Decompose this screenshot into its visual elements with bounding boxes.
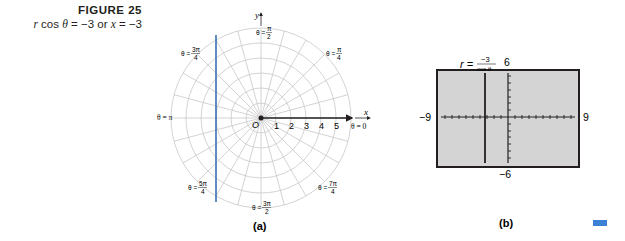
ymin-label: −6	[499, 168, 511, 180]
label-theta-7pi-4: θ = 7π 4	[318, 180, 338, 195]
svg-text:2: 2	[267, 33, 271, 40]
panel-b-label: (b)	[499, 217, 513, 229]
ymax-label: 6	[504, 56, 510, 68]
svg-text:4: 4	[194, 54, 198, 61]
label-theta-0: θ = 0	[351, 122, 367, 131]
tick-5: 5	[334, 121, 339, 131]
xmin-label: −9	[419, 111, 431, 123]
label-theta-3pi-2: θ = 3π 2	[252, 200, 272, 215]
svg-text:2: 2	[265, 208, 269, 215]
tick-3: 3	[304, 121, 309, 131]
svg-text:4: 4	[337, 54, 341, 61]
svg-text:π: π	[267, 25, 272, 32]
tick-4: 4	[319, 121, 324, 131]
svg-text:θ =: θ =	[181, 50, 190, 57]
label-theta-3pi-4: θ = 3π 4	[181, 46, 201, 61]
svg-text:θ =: θ =	[318, 184, 327, 191]
polar-graph: y x O 1 2 3 4 5 θ = 0 θ = π θ = π 2 θ = …	[0, 0, 625, 241]
svg-text:θ =: θ =	[256, 29, 265, 36]
svg-text:θ =: θ =	[188, 184, 197, 191]
y-axis-label: y	[254, 10, 259, 20]
xmax-label: 9	[583, 111, 589, 123]
section-end-marker	[593, 220, 607, 226]
svg-text:5π: 5π	[199, 180, 208, 187]
svg-text:π: π	[337, 46, 342, 53]
svg-text:4: 4	[331, 188, 335, 195]
tick-2: 2	[289, 121, 294, 131]
panel-a-label: (a)	[253, 220, 267, 232]
calculator-screen	[437, 70, 579, 167]
tick-1: 1	[274, 121, 279, 131]
x-axis-label: x	[363, 107, 368, 117]
svg-text:4: 4	[201, 188, 205, 195]
equation-num: −3	[481, 55, 490, 64]
equation-den: cos θ	[477, 65, 492, 73]
label-theta-pi: θ = π	[157, 113, 173, 122]
svg-text:7π: 7π	[329, 180, 338, 187]
svg-text:3π: 3π	[263, 200, 272, 207]
svg-text:θ =: θ =	[326, 50, 335, 57]
origin-point	[259, 116, 264, 121]
svg-text:3π: 3π	[192, 46, 201, 53]
equation-lhs: r =	[460, 58, 474, 70]
origin-label: O	[252, 120, 259, 130]
svg-text:θ =: θ =	[252, 204, 261, 211]
label-theta-pi-2: θ = π 2	[256, 25, 272, 40]
